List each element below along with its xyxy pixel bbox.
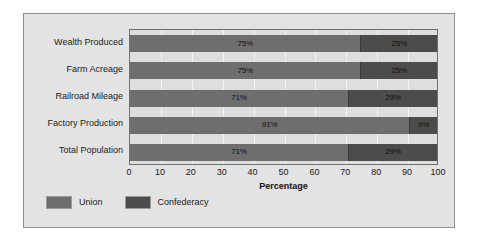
- chart-frame: Wealth ProducedFarm AcreageRailroad Mile…: [23, 13, 455, 228]
- bar-segment-union: 71%: [130, 90, 348, 107]
- bar-value-label: 91%: [262, 121, 277, 129]
- bar-row: 71%29%: [130, 144, 437, 161]
- legend-swatch-confederacy: [125, 196, 151, 209]
- legend-swatch-union: [46, 196, 72, 209]
- bar-value-label: 9%: [418, 121, 429, 129]
- bar-value-label: 75%: [237, 67, 252, 75]
- category-label: Wealth Produced: [54, 38, 123, 47]
- x-axis-title: Percentage: [129, 182, 438, 191]
- x-axis-tick-label: 100: [430, 168, 445, 177]
- legend-label: Confederacy: [158, 198, 209, 207]
- x-axis-tick-label: 30: [217, 168, 227, 177]
- bar-value-label: 71%: [231, 94, 246, 102]
- x-axis-tick-label: 40: [248, 168, 258, 177]
- category-label: Total Population: [59, 146, 123, 155]
- x-axis-tick-label: 80: [371, 168, 381, 177]
- legend-label: Union: [79, 198, 103, 207]
- bar-segment-confederacy: 9%: [409, 117, 437, 134]
- bar-segment-confederacy: 25%: [360, 62, 437, 79]
- category-label: Farm Acreage: [66, 65, 123, 74]
- bar-row: 71%29%: [130, 90, 437, 107]
- category-label: Factory Production: [47, 119, 123, 128]
- x-axis-tick-label: 70: [340, 168, 350, 177]
- chart-legend: UnionConfederacy: [46, 196, 231, 209]
- bar-segment-confederacy: 29%: [348, 90, 437, 107]
- bar-row: 75%25%: [130, 35, 437, 52]
- bar-value-label: 25%: [391, 40, 406, 48]
- legend-item-union[interactable]: Union: [46, 196, 103, 209]
- category-axis-labels: Wealth ProducedFarm AcreageRailroad Mile…: [32, 29, 127, 165]
- legend-item-confederacy[interactable]: Confederacy: [125, 196, 209, 209]
- bar-value-label: 25%: [391, 67, 406, 75]
- x-axis-tick-label: 60: [309, 168, 319, 177]
- bar-segment-union: 71%: [130, 144, 348, 161]
- bar-value-label: 75%: [237, 40, 252, 48]
- bar-row: 91%9%: [130, 117, 437, 134]
- x-axis-tick-label: 50: [278, 168, 288, 177]
- x-axis-tick-label: 10: [155, 168, 165, 177]
- x-axis-tick-label: 0: [126, 168, 131, 177]
- bar-segment-confederacy: 29%: [348, 144, 437, 161]
- category-label: Railroad Mileage: [55, 92, 123, 101]
- x-axis-tick-labels: 0102030405060708090100: [129, 168, 438, 180]
- x-axis-tick-label: 90: [402, 168, 412, 177]
- bar-series-group: 75%25%75%25%71%29%91%9%71%29%: [130, 30, 437, 164]
- bar-row: 75%25%: [130, 62, 437, 79]
- bar-value-label: 71%: [231, 148, 246, 156]
- bar-segment-union: 75%: [130, 35, 360, 52]
- bar-segment-union: 91%: [130, 117, 409, 134]
- bar-value-label: 29%: [385, 94, 400, 102]
- bar-segment-union: 75%: [130, 62, 360, 79]
- bar-segment-confederacy: 25%: [360, 35, 437, 52]
- chart-screenshot: Wealth ProducedFarm AcreageRailroad Mile…: [0, 0, 480, 244]
- plot-area: 75%25%75%25%71%29%91%9%71%29%: [129, 29, 438, 165]
- bar-value-label: 29%: [385, 148, 400, 156]
- x-axis-tick-label: 20: [186, 168, 196, 177]
